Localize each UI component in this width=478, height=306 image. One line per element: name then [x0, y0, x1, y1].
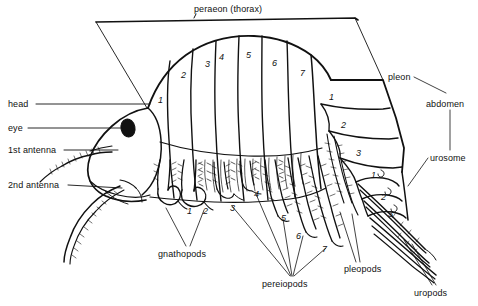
peraeon-segment-number-2: 2 — [181, 70, 186, 80]
label-head: head — [8, 99, 28, 109]
peraeon-segment-number-1: 1 — [158, 95, 163, 105]
label-uropods: uropods — [414, 288, 447, 298]
pleon-segment-number-2: 2 — [341, 120, 346, 130]
appendage-number-6: 6 — [296, 231, 301, 241]
pleon-segment-number-1: 1 — [329, 92, 334, 102]
appendage-number-7: 7 — [322, 244, 327, 254]
label-eye: eye — [8, 123, 23, 133]
label-abdomen: abdomen — [426, 99, 464, 109]
urosome-segment-number-2: 2 — [381, 192, 386, 202]
label-urosome: urosome — [430, 153, 466, 163]
appendage-number-4: 4 — [254, 189, 259, 199]
peraeon-segment-number-6: 6 — [272, 58, 277, 68]
anatomy-figure: peraeon (thorax) head eye 1st antenna 2n… — [0, 0, 478, 306]
label-first-antenna: 1st antenna — [8, 145, 56, 155]
label-peraeon: peraeon (thorax) — [194, 4, 262, 14]
label-pleopods: pleopods — [344, 264, 381, 274]
peraeon-segment-number-7: 7 — [300, 68, 305, 78]
label-pleon: pleon — [388, 72, 411, 82]
label-second-antenna: 2nd antenna — [8, 180, 59, 190]
label-gnathopods: gnathopods — [158, 249, 206, 259]
amphipod-drawing — [0, 0, 478, 306]
label-pereiopods: pereiopods — [262, 279, 308, 289]
peraeon-segment-number-5: 5 — [246, 50, 251, 60]
urosome-segment-number-1: 1 — [371, 170, 376, 180]
appendage-number-5: 5 — [281, 213, 286, 223]
appendage-number-2: 2 — [203, 206, 208, 216]
urosome-segment-number-3: 3 — [388, 209, 393, 219]
peraeon-segment-number-3: 3 — [205, 59, 210, 69]
appendage-number-3: 3 — [230, 203, 235, 213]
peraeon-segment-number-4: 4 — [219, 52, 224, 62]
pleon-segment-number-3: 3 — [356, 148, 361, 158]
appendage-number-1: 1 — [187, 206, 192, 216]
